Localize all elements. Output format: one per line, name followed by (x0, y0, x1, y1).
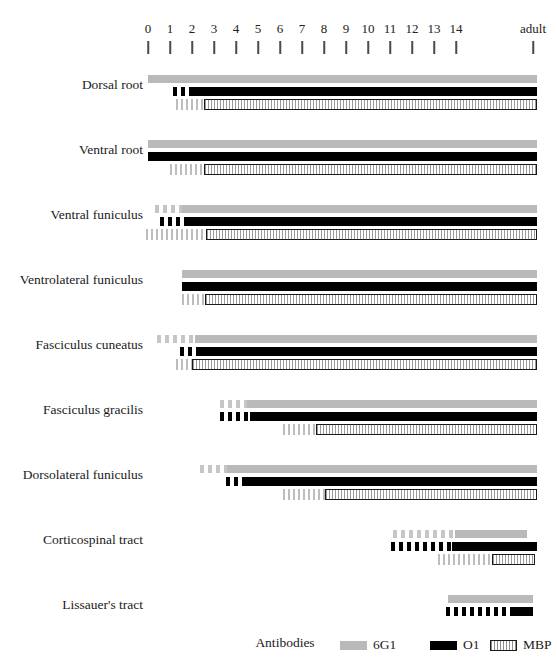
bar-segment-g (148, 75, 537, 83)
bar-track-m (0, 99, 557, 110)
bar-track-o (0, 607, 557, 616)
tract-row: Lissauer's tract (0, 586, 557, 632)
legend-item-O1: O1 (430, 635, 480, 651)
tract-row: Ventral root (0, 131, 557, 177)
bar-track-g (0, 595, 557, 603)
bar-track-g (0, 335, 557, 343)
bar-segment-g (247, 400, 537, 408)
bar-segment-m (316, 424, 537, 435)
bar-track-m (0, 359, 557, 370)
bar-segment-g (227, 465, 537, 473)
bar-segment-o (511, 607, 533, 616)
bar-segment-o (244, 477, 537, 486)
bar-segment-m (325, 489, 537, 500)
bar-segment-o (198, 347, 537, 356)
legend-swatch-O1 (430, 641, 457, 650)
bar-track-o (0, 152, 557, 161)
legend-swatch-MBP (490, 640, 517, 651)
bar-hatch-lead-in (283, 424, 316, 435)
axis-tick-label-11: 11 (384, 22, 397, 35)
axis-tick-label-9: 9 (343, 22, 350, 35)
bar-track-m (0, 294, 557, 305)
legend-item-6G1: 6G1 (340, 635, 396, 651)
bar-segment-m (205, 294, 537, 305)
bar-hatch-lead-in (170, 164, 204, 175)
bar-track-o (0, 542, 557, 551)
bar-segment-g (195, 335, 537, 343)
axis-tick-mark-5 (257, 41, 259, 54)
axis-tick-label-2: 2 (189, 22, 196, 35)
axis-tick-label-adult: adult (520, 22, 546, 35)
bar-hatch-lead-in (200, 465, 227, 473)
bar-track-g (0, 140, 557, 148)
bar-segment-m (204, 99, 537, 110)
axis-tick-label-12: 12 (406, 22, 419, 35)
bar-track-g (0, 530, 557, 538)
bar-track-m (0, 554, 557, 565)
axis-tick-label-6: 6 (277, 22, 284, 35)
bar-track-o (0, 412, 557, 421)
bar-segment-o (452, 542, 537, 551)
time-axis: 01234567891011121314adult (0, 0, 557, 58)
bar-hatch-lead-in (283, 489, 325, 500)
legend: Antibodies 6G1O1MBP (0, 632, 557, 656)
axis-tick-label-5: 5 (255, 22, 262, 35)
axis-tick-mark-4 (235, 41, 237, 54)
legend-label-MBP: MBP (523, 637, 552, 653)
axis-tick-mark-13 (433, 41, 435, 54)
axis-tick-label-3: 3 (211, 22, 218, 35)
bar-segment-g (148, 140, 537, 148)
bar-hatch-lead-in (220, 400, 247, 408)
axis-tick-mark-9 (345, 41, 347, 54)
bar-hatch-lead-in (226, 477, 244, 486)
bar-segment-g (455, 530, 527, 538)
legend-item-MBP: MBP (490, 635, 552, 651)
bar-segment-o (186, 217, 537, 226)
bar-segment-g (182, 205, 537, 213)
axis-tick-mark-14 (455, 41, 457, 54)
bar-hatch-lead-in (446, 607, 511, 616)
bar-hatch-lead-in (155, 205, 182, 213)
bar-segment-m (192, 359, 537, 370)
axis-tick-mark-12 (411, 41, 413, 54)
axis-tick-mark-7 (301, 41, 303, 54)
axis-tick-label-1: 1 (167, 22, 174, 35)
legend-label-O1: O1 (463, 637, 480, 653)
bar-segment-o (250, 412, 537, 421)
bar-segment-o (191, 87, 537, 96)
axis-tick-label-10: 10 (362, 22, 375, 35)
tract-row: Corticospinal tract (0, 521, 557, 567)
axis-tick-mark-10 (367, 41, 369, 54)
bar-track-o (0, 282, 557, 291)
bar-hatch-lead-in (176, 359, 192, 370)
tract-row: Dorsal root (0, 66, 557, 112)
bar-hatch-lead-in (182, 294, 205, 305)
bar-segment-g (182, 270, 537, 278)
axis-tick-label-8: 8 (321, 22, 328, 35)
bar-hatch-lead-in (146, 229, 206, 240)
bar-track-m (0, 489, 557, 500)
axis-tick-label-0: 0 (145, 22, 152, 35)
bar-hatch-lead-in (160, 217, 186, 226)
bar-track-g (0, 75, 557, 83)
legend-label-6G1: 6G1 (373, 637, 396, 653)
bar-track-o (0, 217, 557, 226)
bar-segment-g (448, 595, 533, 603)
tract-row: Fasciculus gracilis (0, 391, 557, 437)
bar-hatch-lead-in (393, 530, 455, 538)
bar-hatch-lead-in (438, 554, 492, 565)
bar-segment-m (206, 229, 537, 240)
bar-track-g (0, 205, 557, 213)
bar-segment-m (204, 164, 537, 175)
axis-tick-mark-1 (169, 41, 171, 54)
axis-tick-label-4: 4 (233, 22, 240, 35)
legend-title: Antibodies (255, 635, 314, 651)
axis-tick-mark-2 (191, 41, 193, 54)
bar-track-m (0, 619, 557, 630)
bar-track-o (0, 347, 557, 356)
bar-track-o (0, 87, 557, 96)
axis-tick-mark-0 (147, 41, 149, 54)
bar-track-g (0, 465, 557, 473)
tract-row: Dorsolateral funiculus (0, 456, 557, 502)
bar-hatch-lead-in (157, 335, 195, 343)
